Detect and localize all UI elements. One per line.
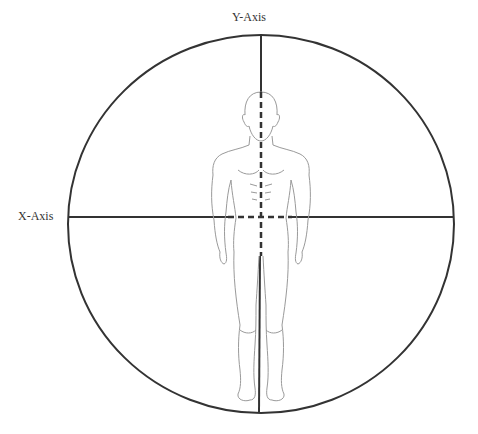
y-axis-bottom [259, 256, 260, 412]
axis-diagram [0, 0, 478, 434]
